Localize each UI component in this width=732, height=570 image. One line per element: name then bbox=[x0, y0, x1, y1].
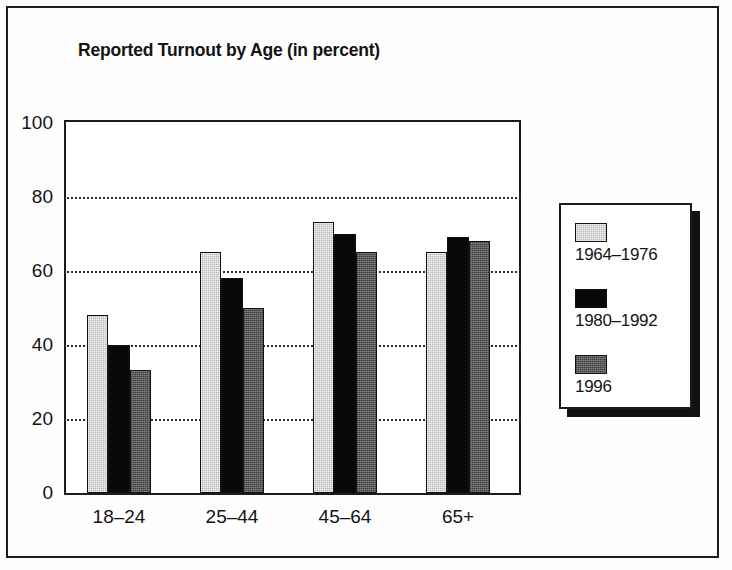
bar bbox=[130, 370, 152, 492]
bar bbox=[221, 278, 243, 493]
chart-title: Reported Turnout by Age (in percent) bbox=[78, 40, 380, 61]
y-tick-label: 20 bbox=[32, 408, 53, 430]
y-tick-label: 80 bbox=[32, 186, 53, 208]
y-tick-label: 100 bbox=[21, 112, 53, 134]
bar bbox=[356, 252, 378, 493]
bar-group bbox=[200, 123, 265, 493]
bar bbox=[313, 222, 335, 492]
y-tick-label: 0 bbox=[42, 482, 53, 504]
bar bbox=[200, 252, 222, 493]
legend-swatch bbox=[575, 289, 607, 308]
legend-item[interactable]: 1964–1976 bbox=[575, 223, 657, 265]
bar bbox=[426, 252, 448, 493]
legend-item[interactable]: 1996 bbox=[575, 355, 612, 397]
y-tick-label: 40 bbox=[32, 334, 53, 356]
bar bbox=[243, 308, 265, 493]
bar-group bbox=[313, 123, 378, 493]
bar bbox=[108, 345, 130, 493]
x-tick-label: 65+ bbox=[442, 506, 474, 528]
legend-swatch bbox=[575, 355, 607, 374]
plot-area: 020406080100 18–2425–4445–6465+ bbox=[64, 120, 521, 495]
legend-label: 1996 bbox=[575, 377, 612, 397]
bar bbox=[334, 234, 356, 493]
x-tick-label: 25–44 bbox=[206, 506, 259, 528]
bar-group bbox=[426, 123, 491, 493]
bar-group bbox=[87, 123, 152, 493]
legend-label: 1980–1992 bbox=[575, 311, 657, 331]
legend-item[interactable]: 1980–1992 bbox=[575, 289, 657, 331]
chart-legend: 1964–19761980–19921996 bbox=[559, 203, 692, 409]
legend-label: 1964–1976 bbox=[575, 245, 657, 265]
legend-swatch bbox=[575, 223, 607, 242]
bar bbox=[87, 315, 109, 493]
chart-figure: Reported Turnout by Age (in percent) 020… bbox=[0, 0, 732, 570]
bar bbox=[447, 237, 469, 492]
x-tick-label: 45–64 bbox=[319, 506, 372, 528]
y-tick-label: 60 bbox=[32, 260, 53, 282]
bar bbox=[469, 241, 491, 493]
x-tick-label: 18–24 bbox=[93, 506, 146, 528]
bars-layer bbox=[67, 123, 519, 493]
